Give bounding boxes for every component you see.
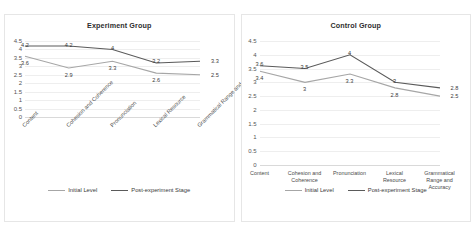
y-axis-tick-label: 1.5 <box>248 121 256 127</box>
gridline <box>25 117 200 118</box>
y-axis-tick-label: 4 <box>253 52 256 58</box>
data-point-label: 3.5 <box>301 64 309 70</box>
data-point-label: 2.8 <box>391 92 399 98</box>
legend-item-post-experiment-stage: Post-experiment Stage <box>348 187 427 193</box>
plot-area-experiment-group: 4.543.532.521.510.503.62.93.32.62.54.24.… <box>25 41 200 117</box>
legend-label-initial-level: Initial Level <box>305 187 334 193</box>
plot-area-control-group: 4.543.532.521.510.503.433.32.82.53.63.54… <box>260 41 440 165</box>
data-point-label: 3.6 <box>256 61 264 67</box>
y-axis-tick-label: 0.5 <box>14 106 22 112</box>
x-axis-category-label: Pronunciation <box>330 170 370 177</box>
gridline <box>260 165 440 166</box>
legend-label-initial-level: Initial Level <box>68 187 97 193</box>
y-axis-tick-label: 4.5 <box>248 38 256 44</box>
chart-title-experiment-group: Experiment Group <box>5 21 234 30</box>
legend-swatch-post-experiment-stage <box>348 190 365 191</box>
y-axis-tick-label: 2 <box>19 80 22 86</box>
y-axis-tick-label: 1 <box>253 134 256 140</box>
x-axis-category-label: Cohesion and Coherence <box>285 170 325 184</box>
legend-item-post-experiment-stage: Post-experiment Stage <box>111 187 190 193</box>
data-point-label: 4.2 <box>21 42 29 48</box>
data-point-label: 3.4 <box>256 75 264 81</box>
data-point-label: 2.8 <box>451 85 459 91</box>
data-point-label: 2.5 <box>211 72 219 78</box>
data-point-label: 2.5 <box>451 93 459 99</box>
x-axis-category-label: Lexical Resource <box>375 170 415 184</box>
data-point-label: 2.9 <box>65 72 73 78</box>
data-point-label: 3.3 <box>346 78 354 84</box>
y-axis-tick-label: 0 <box>253 162 256 168</box>
y-axis-tick-label: 1 <box>19 97 22 103</box>
data-point-label: 3 <box>303 86 306 92</box>
y-axis-tick-label: 2.5 <box>248 93 256 99</box>
legend-control-group: Initial Level Post-experiment Stage <box>242 187 471 193</box>
legend-swatch-initial-level <box>285 190 302 191</box>
data-point-label: 3.3 <box>211 58 219 64</box>
y-axis-tick-label: 2.5 <box>14 72 22 78</box>
legend-item-initial-level: Initial Level <box>48 187 97 193</box>
chart-panels-container: Experiment Group 4.543.532.521.510.503.6… <box>0 0 475 236</box>
data-point-label: 3.6 <box>21 60 29 66</box>
legend-swatch-initial-level <box>48 190 65 191</box>
legend-label-post-experiment-stage: Post-experiment Stage <box>368 187 427 193</box>
data-point-label: 4.2 <box>65 42 73 48</box>
chart-title-control-group: Control Group <box>242 21 471 30</box>
data-point-label: 2.6 <box>152 77 160 83</box>
legend-swatch-post-experiment-stage <box>111 190 128 191</box>
legend-item-initial-level: Initial Level <box>285 187 334 193</box>
y-axis-tick-label: 2 <box>253 107 256 113</box>
legend-label-post-experiment-stage: Post-experiment Stage <box>131 187 190 193</box>
data-point-label: 4 <box>111 45 114 51</box>
x-axis-category-label: Content <box>240 170 280 177</box>
data-point-label: 3 <box>393 78 396 84</box>
data-point-label: 4 <box>348 50 351 56</box>
data-point-label: 3.3 <box>109 65 117 71</box>
y-axis-tick-label: 0 <box>19 114 22 120</box>
chart-panel-control-group: Control Group 4.543.532.521.510.503.433.… <box>241 14 472 222</box>
series-lines <box>260 41 440 165</box>
data-point-label: 3.2 <box>152 58 160 64</box>
y-axis-tick-label: 0.5 <box>248 148 256 154</box>
y-axis-tick-label: 1.5 <box>14 89 22 95</box>
legend-experiment-group: Initial Level Post-experiment Stage <box>5 187 234 193</box>
chart-panel-experiment-group: Experiment Group 4.543.532.521.510.503.6… <box>4 14 235 222</box>
